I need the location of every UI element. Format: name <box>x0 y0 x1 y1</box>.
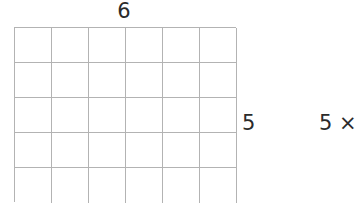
grid-cell <box>52 28 89 63</box>
grid-cell <box>200 133 237 168</box>
grid-cell <box>126 63 163 98</box>
grid-cell <box>126 28 163 63</box>
grid-cell <box>163 28 200 63</box>
grid-cell <box>126 98 163 133</box>
grid-cell <box>89 133 126 168</box>
grid-cell <box>15 63 52 98</box>
grid-cell <box>15 168 52 203</box>
grid-cell <box>89 98 126 133</box>
grid-cell <box>200 98 237 133</box>
grid-cell <box>163 98 200 133</box>
grid-cell <box>89 63 126 98</box>
grid-cell <box>52 133 89 168</box>
grid-cell <box>126 168 163 203</box>
image-canvas: 6 5 5 × <box>0 0 356 207</box>
grid-container <box>14 27 236 202</box>
grid <box>14 27 236 202</box>
grid-cell <box>89 168 126 203</box>
grid-cell <box>200 28 237 63</box>
grid-cell <box>15 28 52 63</box>
grid-column-count-label: 6 <box>104 0 144 24</box>
grid-cell <box>163 63 200 98</box>
grid-cell <box>15 133 52 168</box>
multiplication-expression-label: 5 × <box>319 108 356 138</box>
grid-cell <box>126 133 163 168</box>
grid-cell <box>52 63 89 98</box>
grid-cell <box>163 133 200 168</box>
grid-cell <box>89 28 126 63</box>
grid-cell <box>52 168 89 203</box>
grid-cell <box>52 98 89 133</box>
grid-row-count-label: 5 <box>242 108 255 138</box>
grid-cell <box>200 168 237 203</box>
grid-cell <box>200 63 237 98</box>
grid-cell <box>15 98 52 133</box>
grid-cell <box>163 168 200 203</box>
